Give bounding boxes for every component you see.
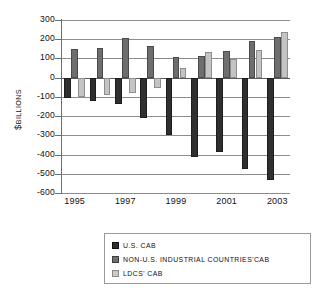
bar xyxy=(180,68,186,77)
bar xyxy=(166,78,172,136)
bar xyxy=(198,56,204,78)
bar xyxy=(115,78,121,104)
bar-group xyxy=(189,20,214,193)
bar xyxy=(154,78,160,89)
bar xyxy=(281,32,287,78)
series-0-swatch xyxy=(112,242,119,249)
gridline xyxy=(62,193,290,194)
bar xyxy=(242,78,248,169)
y-tick-label: -200 xyxy=(7,110,55,120)
y-tick-label: -600 xyxy=(7,187,55,197)
bar xyxy=(205,52,211,78)
bar-group xyxy=(138,20,163,193)
x-axis-label: 1999 xyxy=(166,196,187,206)
bar-group xyxy=(163,20,188,193)
bar-group xyxy=(265,20,290,193)
y-tick-label: -400 xyxy=(7,149,55,159)
bar xyxy=(78,78,84,97)
bar xyxy=(267,78,273,180)
x-axis-label: 1997 xyxy=(115,196,136,206)
bar xyxy=(191,78,197,158)
bar xyxy=(90,78,96,101)
bar-chart: $BILLIONS 3002001000-100-200-300-400-500… xyxy=(0,0,328,291)
bar xyxy=(64,78,70,98)
x-axis-labels: 19951997199920012003 xyxy=(62,196,290,212)
y-tick-label: -100 xyxy=(7,91,55,101)
bar xyxy=(129,78,135,93)
y-axis-ticks: 3002001000-100-200-300-400-500-600 xyxy=(0,0,55,291)
bar xyxy=(216,78,222,153)
bar xyxy=(122,38,128,78)
y-tick-label: 200 xyxy=(7,33,55,43)
bar xyxy=(97,48,103,77)
legend-label: NON-U.S. INDUSTRIAL COUNTRIES'CAB xyxy=(123,256,269,263)
y-tick-label: 100 xyxy=(7,52,55,62)
y-tick-label: 0 xyxy=(7,72,55,82)
series-2-swatch xyxy=(112,270,119,277)
bar-group xyxy=(239,20,264,193)
bar-group xyxy=(113,20,138,193)
bar xyxy=(256,50,262,77)
y-tick-label: -300 xyxy=(7,129,55,139)
legend-label: LDCS' CAB xyxy=(123,270,163,277)
bar xyxy=(147,46,153,78)
legend-item[interactable]: LDCS' CAB xyxy=(112,267,310,280)
chart-legend: U.S. CABNON-U.S. INDUSTRIAL COUNTRIES'CA… xyxy=(104,233,311,284)
x-axis-label: 1995 xyxy=(64,196,85,206)
bar xyxy=(223,51,229,77)
legend-label: U.S. CAB xyxy=(123,242,156,249)
legend-item[interactable]: NON-U.S. INDUSTRIAL COUNTRIES'CAB xyxy=(112,253,310,266)
y-tick-label: -500 xyxy=(7,168,55,178)
bar xyxy=(104,78,110,95)
bar-group xyxy=(214,20,239,193)
x-axis-label: 2001 xyxy=(216,196,237,206)
series-1-swatch xyxy=(112,256,119,263)
bar xyxy=(140,78,146,119)
bar xyxy=(173,57,179,78)
bar xyxy=(249,41,255,78)
bar-group xyxy=(87,20,112,193)
legend-item[interactable]: U.S. CAB xyxy=(112,239,310,252)
bar-group xyxy=(62,20,87,193)
y-tick-label: 300 xyxy=(7,14,55,24)
x-axis-label: 2003 xyxy=(267,196,288,206)
bar xyxy=(71,49,77,77)
bar xyxy=(274,37,280,77)
bar xyxy=(230,59,236,77)
plot-area xyxy=(62,20,290,193)
